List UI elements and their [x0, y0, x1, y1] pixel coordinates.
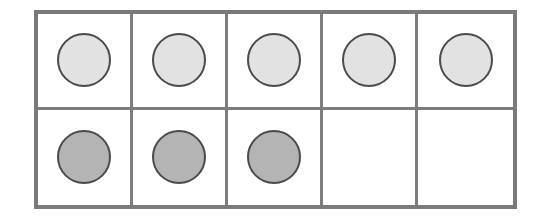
frame-cell-r1-c3 [228, 14, 323, 110]
frame-cell-r1-c5 [418, 14, 513, 110]
frame-cell-r2-c1 [38, 110, 133, 206]
frame-cell-r1-c4 [323, 14, 418, 110]
frame-cell-r2-c4 [323, 110, 418, 206]
light-counter-circle-icon [152, 33, 206, 87]
light-counter-circle-icon [247, 33, 301, 87]
light-counter-circle-icon [439, 33, 493, 87]
dark-counter-circle-icon [247, 130, 301, 184]
dark-counter-circle-icon [152, 130, 206, 184]
ten-frame [34, 10, 517, 209]
frame-cell-r2-c2 [133, 110, 228, 206]
light-counter-circle-icon [57, 33, 111, 87]
dark-counter-circle-icon [57, 130, 111, 184]
frame-cell-r2-c5 [418, 110, 513, 206]
frame-cell-r1-c2 [133, 14, 228, 110]
frame-cell-r1-c1 [38, 14, 133, 110]
frame-cell-r2-c3 [228, 110, 323, 206]
light-counter-circle-icon [342, 33, 396, 87]
